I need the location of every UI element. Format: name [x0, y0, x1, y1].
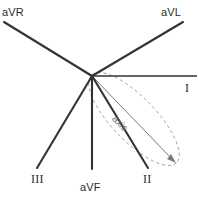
lead-label-aVL: aVL [161, 6, 181, 18]
lead-label-aVF: aVF [80, 181, 101, 193]
lead-line-aVL [92, 22, 183, 76]
ecg-axis-figure: aVR aVL I II aVF III axis [0, 0, 199, 203]
lead-label-aVR: aVR [2, 6, 24, 18]
lead-label-II: II [143, 172, 152, 187]
lead-label-III: III [31, 172, 44, 187]
lead-label-I: I [185, 81, 189, 96]
ecg-axis-diagram [0, 0, 199, 203]
lead-line-III [37, 76, 92, 168]
lead-line-aVR [4, 22, 92, 76]
